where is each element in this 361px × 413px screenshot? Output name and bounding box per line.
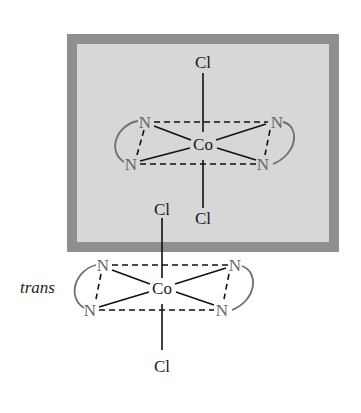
top-bond-co-n3	[140, 148, 190, 161]
bottom-cl-upper: Cl	[154, 200, 170, 219]
bottom-dash-right	[224, 274, 229, 299]
bottom-n-upper-left: N	[97, 256, 109, 275]
top-n-lower-left: N	[125, 155, 137, 174]
bottom-bond-co-n1	[112, 270, 150, 284]
top-n-upper-right: N	[271, 113, 283, 132]
top-n-lower-right: N	[257, 155, 269, 174]
bottom-bond-co-n4	[176, 292, 214, 305]
top-bond-co-n4	[217, 148, 256, 160]
top-dash-left	[137, 130, 144, 155]
top-co: Co	[193, 135, 213, 154]
bottom-n-upper-right: N	[229, 256, 241, 275]
bottom-n-lower-left: N	[84, 301, 96, 320]
bottom-dash-left	[96, 274, 101, 299]
bottom-complex: Cl Cl Co N N N N trans	[20, 200, 253, 376]
top-dash-right	[265, 130, 270, 155]
top-complex: Cl Cl Co N N N N	[115, 53, 294, 228]
bottom-cl-lower: Cl	[154, 357, 170, 376]
top-bond-co-n1	[154, 126, 191, 140]
bottom-bond-co-n3	[99, 292, 149, 307]
top-n-upper-left: N	[139, 113, 151, 132]
top-cl-lower: Cl	[195, 209, 211, 228]
bottom-bond-co-n2	[175, 268, 226, 284]
top-bond-co-n2	[216, 124, 266, 140]
trans-label: trans	[20, 278, 55, 297]
bottom-n-lower-right: N	[216, 301, 228, 320]
top-cl-upper: Cl	[195, 53, 211, 72]
complex-diagram: Cl Cl Co N N N N Cl Cl Co N N N N trans	[0, 0, 361, 413]
bottom-co: Co	[152, 279, 172, 298]
